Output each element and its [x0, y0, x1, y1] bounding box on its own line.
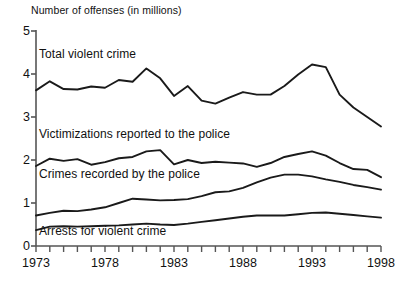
chart-container: Number of offenses (in millions) 5 4 3 2…	[0, 0, 416, 284]
x-tick-label-1978: 1978	[83, 256, 127, 270]
chart-plot-area	[0, 0, 416, 284]
y-tick-label-1: 1	[12, 196, 30, 210]
x-tick-label-1993: 1993	[290, 256, 334, 270]
y-tick-label-0: 0	[12, 239, 30, 253]
series-label-victimizations-reported: Victimizations reported to the police	[39, 127, 230, 141]
series-label-total-violent-crime: Total violent crime	[39, 47, 136, 61]
y-tick-label-4: 4	[12, 67, 30, 81]
x-tick-label-1998: 1998	[359, 256, 403, 270]
y-tick-label-3: 3	[12, 110, 30, 124]
x-tick-label-1988: 1988	[221, 256, 265, 270]
series-label-crimes-recorded: Crimes recorded by the police	[39, 167, 200, 181]
data-series-group	[36, 65, 381, 231]
y-tick-label-2: 2	[12, 153, 30, 167]
x-axis-ticks	[36, 246, 381, 252]
y-tick-label-5: 5	[12, 24, 30, 38]
x-tick-label-1973: 1973	[14, 256, 58, 270]
x-tick-label-1983: 1983	[152, 256, 196, 270]
series-line-0	[36, 65, 381, 127]
series-label-arrests: Arrests for violent crime	[39, 224, 166, 238]
